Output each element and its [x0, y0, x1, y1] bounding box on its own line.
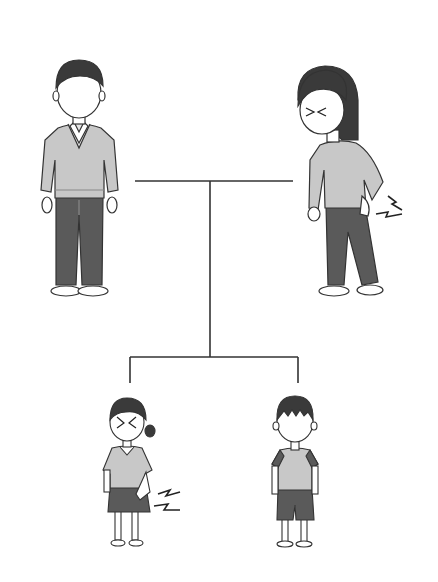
mother-figure — [298, 66, 402, 296]
son-figure — [272, 396, 318, 547]
father-figure — [41, 60, 118, 296]
family-tree-diagram — [0, 0, 438, 582]
daughter-figure — [103, 398, 180, 546]
tree-connectors — [130, 181, 298, 383]
